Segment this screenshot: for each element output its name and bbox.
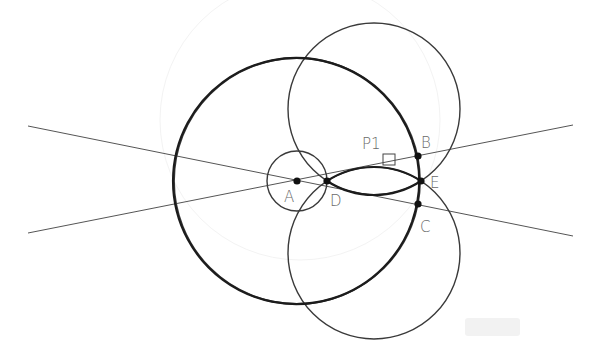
label-b: B xyxy=(421,134,431,152)
line-a-b xyxy=(28,125,573,233)
lower-circle xyxy=(288,167,460,339)
point-b xyxy=(414,152,421,159)
label-d: D xyxy=(330,192,342,210)
point-c xyxy=(414,200,421,207)
lens-arc-upper xyxy=(327,167,421,181)
label-a: A xyxy=(284,188,294,206)
point-e xyxy=(417,177,424,184)
point-a xyxy=(293,177,300,184)
upper-circle xyxy=(288,23,460,195)
label-p1: P1 xyxy=(362,135,381,153)
geometry-diagram: A D B E C P1 xyxy=(0,0,595,360)
background-watermark xyxy=(160,0,520,336)
p1-marker-square xyxy=(383,154,395,165)
label-e: E xyxy=(430,174,439,192)
point-d xyxy=(323,177,330,184)
label-c: C xyxy=(420,218,430,236)
